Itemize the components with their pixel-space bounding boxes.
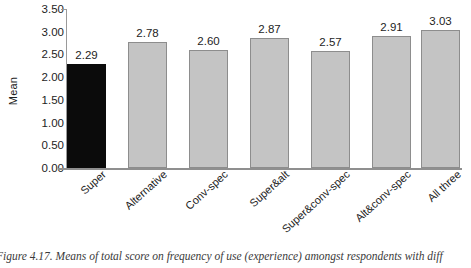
figure-container: Mean 3.50 3.00 2.50 2.00 1.50 1.00 0.50 … [0, 0, 471, 268]
bar-rect[interactable] [421, 30, 460, 168]
bar-value-label: 2.57 [295, 36, 366, 48]
bar-rect[interactable] [189, 50, 228, 168]
figure-caption: Figure 4.17. Means of total score on fre… [0, 249, 471, 263]
bar-value-label: 2.29 [51, 49, 122, 61]
bar-value-label: 3.03 [405, 15, 471, 27]
chart-plot-area: Mean 3.50 3.00 2.50 2.00 1.50 1.00 0.50 … [0, 0, 471, 175]
bar-value-label: 2.87 [234, 23, 305, 35]
bar-group[interactable]: 2.60 [189, 0, 228, 175]
bars-layer: 2.29 2.78 2.60 2.87 2.57 2.91 [0, 0, 471, 175]
bar-rect[interactable] [67, 64, 106, 168]
bar-rect[interactable] [128, 42, 167, 168]
bar-group[interactable]: 2.29 [67, 0, 106, 175]
bar-group[interactable]: 3.03 [421, 0, 460, 175]
bar-rect[interactable] [372, 36, 411, 168]
bar-rect[interactable] [250, 38, 289, 168]
bar-rect[interactable] [311, 51, 350, 168]
bar-value-label: 2.60 [173, 35, 244, 47]
x-axis-category-labels: Super Alternative Conv-spec Super&alt Su… [0, 168, 471, 248]
bar-group[interactable]: 2.57 [311, 0, 350, 175]
bar-group[interactable]: 2.87 [250, 0, 289, 175]
bar-group[interactable]: 2.78 [128, 0, 167, 175]
